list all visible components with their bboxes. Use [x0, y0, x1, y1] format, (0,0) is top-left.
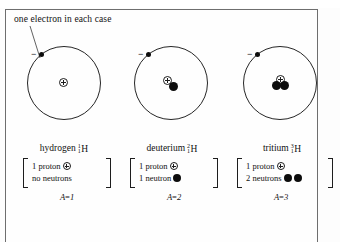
mass-number-line-hydrogen: A=1: [23, 192, 111, 202]
bracket-right: [328, 158, 333, 188]
proton-icon: [170, 162, 178, 170]
mass-number-line-deuterium: A=2: [130, 192, 218, 202]
neutron-count-text-deuterium: 1 neutron: [139, 173, 171, 183]
composition-lines-hydrogen: 1 proton no neutrons: [32, 161, 72, 184]
composition-neutron-row: no neutrons: [32, 173, 72, 185]
neutron-count-text-hydrogen: no neutrons: [32, 173, 72, 183]
isotope-name-tritium: tritium: [263, 143, 289, 153]
composition-lines-tritium: 1 proton 2 neutrons: [246, 161, 302, 184]
page-top-edge: [0, 0, 340, 8]
electron-caption: one electron in each case: [14, 14, 111, 24]
neutron-count-text-tritium: 2 neutrons: [246, 173, 282, 183]
isotope-label-hydrogen: hydrogen11H: [14, 143, 114, 154]
neutron-particle: [280, 81, 289, 90]
proton-count-text-tritium: 1 proton: [246, 161, 275, 171]
composition-proton-row: 1 proton: [139, 161, 181, 173]
composition-box-tritium: 1 proton 2 neutrons: [237, 158, 333, 188]
electron-dot-deuterium: [146, 52, 151, 57]
element-symbol-tritium: H: [294, 144, 301, 154]
proton-count-text-deuterium: 1 proton: [139, 161, 168, 171]
bracket-left: [23, 158, 28, 188]
proton-count-text-hydrogen: 1 proton: [32, 161, 61, 171]
electron-charge-label-deuterium: −: [138, 51, 143, 57]
electron-charge-label-hydrogen: −: [31, 51, 36, 57]
bracket-right: [213, 158, 218, 188]
proton-icon: [277, 162, 285, 170]
neutron-icon: [173, 174, 181, 182]
composition-proton-row: 1 proton: [246, 161, 302, 173]
proton-icon: [63, 162, 71, 170]
isotope-symbol-hydrogen: 11H: [78, 143, 88, 154]
electron-dot-hydrogen: [39, 52, 44, 57]
mass-number-line-tritium: A=3: [237, 192, 325, 202]
isotope-symbol-tritium: 31H: [291, 143, 301, 154]
isotope-label-deuterium: deuterium21H: [120, 143, 224, 154]
isotope-name-deuterium: deuterium: [147, 143, 186, 153]
mass-value-deuterium: 2: [177, 192, 181, 202]
neutron-particle: [169, 82, 178, 91]
composition-box-deuterium: 1 proton 1 neutron: [130, 158, 218, 188]
isotope-label-tritium: tritium31H: [232, 143, 332, 154]
electron-dot-tritium: [255, 52, 260, 57]
neutron-icon: [284, 174, 292, 182]
bracket-left: [130, 158, 135, 188]
figure-frame: [5, 9, 318, 242]
composition-proton-row: 1 proton: [32, 161, 72, 173]
electron-charge-label-tritium: −: [247, 51, 252, 57]
isotope-symbol-deuterium: 21H: [187, 143, 197, 154]
composition-neutron-row: 1 neutron: [139, 173, 181, 185]
bracket-left: [237, 158, 242, 188]
proton-particle: [59, 78, 68, 87]
isotope-figure: one electron in each case − hydrogen11H …: [0, 0, 340, 242]
composition-neutron-row: 2 neutrons: [246, 173, 302, 185]
composition-lines-deuterium: 1 proton 1 neutron: [139, 161, 181, 184]
mass-value-hydrogen: 1: [70, 192, 74, 202]
neutron-icon: [294, 174, 302, 182]
bracket-right: [106, 158, 111, 188]
element-symbol-deuterium: H: [191, 144, 198, 154]
isotope-name-hydrogen: hydrogen: [40, 143, 76, 153]
composition-box-hydrogen: 1 proton no neutrons: [23, 158, 111, 188]
element-symbol-hydrogen: H: [81, 144, 88, 154]
mass-value-tritium: 3: [284, 192, 288, 202]
